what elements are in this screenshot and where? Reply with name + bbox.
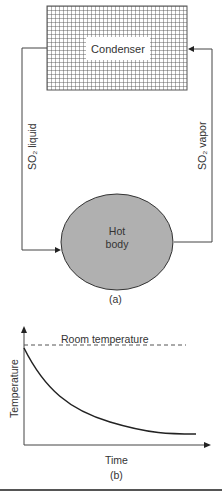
so2-vapor-label: SO₂ vapor [196, 122, 208, 170]
bottom-rule [0, 489, 222, 491]
cooling-curve [24, 348, 196, 434]
so2-liquid-label: SO₂ liquid [26, 123, 38, 170]
x-axis-arrow-icon [204, 442, 211, 448]
condenser-label: Condenser [86, 37, 150, 60]
room-temperature-label: Room temperature [61, 333, 149, 345]
x-axis-label: Time [105, 454, 128, 466]
caption-b: (b) [110, 469, 123, 481]
liquid-arrow-icon [55, 247, 61, 253]
hot-body-line2: body [97, 238, 137, 251]
hot-body-label: Hot body [97, 225, 137, 251]
y-axis-label: Temperature [8, 359, 20, 418]
caption-a: (a) [109, 293, 122, 305]
vapor-arrow-icon [188, 46, 194, 52]
hot-body-line1: Hot [97, 225, 137, 238]
y-axis-arrow-icon [21, 326, 27, 333]
